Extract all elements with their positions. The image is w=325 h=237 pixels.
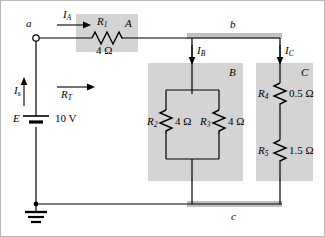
resistor-r3-symbol-text: R	[200, 115, 207, 127]
source-value: 10 V	[55, 113, 77, 124]
resistor-r4-label: R4	[258, 88, 268, 100]
node-b-label: b	[230, 19, 236, 30]
resistor-r5-label: R5	[258, 145, 268, 157]
current-ia-subscript: A	[67, 13, 72, 22]
resistor-r1-label: R1	[97, 16, 107, 28]
resistor-r3-label: R3	[200, 116, 210, 128]
block-c-shading	[256, 63, 313, 181]
resistor-r5-value: 1.5 Ω	[289, 145, 314, 156]
node-a-terminal	[33, 35, 39, 41]
resistor-r2-subscript: 2	[154, 120, 158, 129]
resistor-r1-symbol-text: R	[97, 15, 104, 27]
schematic-canvas	[1, 1, 325, 237]
current-is-label: Is	[14, 85, 21, 97]
resistor-r2-value: 4 Ω	[175, 116, 191, 127]
resistor-r3-subscript: 3	[207, 120, 211, 129]
current-ib-subscript: B	[201, 49, 206, 58]
resistor-r5-symbol-text: R	[258, 144, 265, 156]
node-a-label: a	[26, 18, 32, 29]
circuit-diagram-figure: a b c IA Is RT IB IC A R1 4 Ω B R2 4 Ω R…	[0, 0, 325, 237]
resistor-r4-value: 0.5 Ω	[289, 88, 314, 99]
rt-symbol: R	[61, 88, 68, 100]
current-ic-label: IC	[285, 45, 294, 57]
node-c-label: c	[231, 211, 236, 222]
resistor-r5-subscript: 5	[265, 149, 269, 158]
block-b-label: B	[229, 67, 236, 78]
block-a-label: A	[125, 18, 132, 29]
current-is-arrow-head	[21, 77, 28, 85]
resistor-r4-symbol-text: R	[258, 87, 265, 99]
current-ic-subscript: C	[289, 49, 294, 58]
resistor-r1-subscript: 1	[104, 20, 108, 29]
total-resistance-label: RT	[61, 89, 72, 101]
source-label: E	[13, 113, 20, 124]
rt-arrow-head	[87, 84, 95, 91]
current-is-subscript: s	[18, 89, 21, 98]
resistor-r1-value: 4 Ω	[96, 45, 112, 56]
current-ia-label: IA	[63, 9, 71, 21]
rt-subscript: T	[68, 93, 72, 102]
resistor-r4-subscript: 4	[265, 92, 269, 101]
resistor-r2-symbol-text: R	[147, 115, 154, 127]
resistor-r3-value: 4 Ω	[228, 116, 244, 127]
block-c-label: C	[301, 67, 308, 78]
current-ib-label: IB	[197, 45, 205, 57]
resistor-r2-label: R2	[147, 116, 157, 128]
